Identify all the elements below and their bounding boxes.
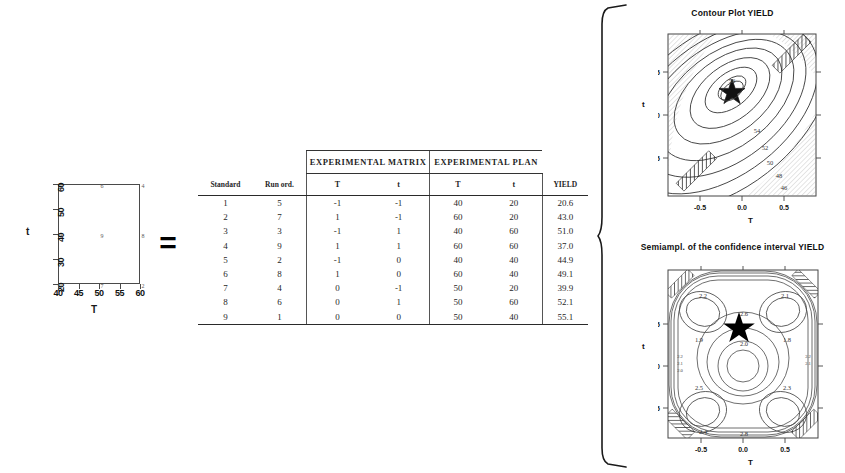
table-cell: 20: [486, 210, 542, 224]
svg-text: 0.5: [779, 204, 789, 211]
table-row: 9100504055.1: [198, 310, 588, 325]
design-plot-x-tick-45: 45: [74, 288, 83, 298]
svg-text: 0.0: [737, 204, 747, 211]
svg-text: -0.5: [658, 405, 660, 412]
experimental-design-table: EXPERIMENTAL MATRIX EXPERIMENTAL PLAN St…: [198, 150, 588, 325]
column-header-plan-T: T: [430, 174, 486, 196]
svg-text: 50: [767, 159, 774, 166]
svg-text: 0.5: [658, 321, 660, 328]
svg-text: 48: [776, 172, 783, 179]
svg-text: 2.6: [740, 310, 749, 317]
table-cell: 7: [253, 210, 307, 224]
table-cell: 50: [430, 310, 486, 325]
svg-text: 2.8: [740, 430, 748, 437]
table-cell: 43.0: [542, 210, 588, 224]
table-group-header-row: EXPERIMENTAL MATRIX EXPERIMENTAL PLAN: [198, 151, 588, 174]
table-cell: 1: [368, 224, 430, 238]
svg-text: 54: [754, 127, 761, 134]
column-header-matrix-T: T: [306, 174, 368, 196]
design-layout-plot: t T 60504030204045505560 564398172: [24, 178, 149, 323]
table-cell: 60: [486, 224, 542, 238]
svg-text: 0.0: [738, 446, 748, 453]
table-row: 8601506052.1: [198, 295, 588, 309]
svg-text: 2.0: [677, 368, 683, 373]
column-header-matrix-t: t: [368, 174, 430, 196]
table-cell: 3: [198, 224, 253, 238]
table-row: 52-10404044.9: [198, 253, 588, 267]
table-cell: 6: [198, 267, 253, 281]
table-cell: -1: [368, 210, 430, 224]
design-plot-x-tickmark: [120, 284, 121, 289]
table-cell: 44.9: [542, 253, 588, 267]
group-header-experimental-plan: EXPERIMENTAL PLAN: [430, 151, 542, 174]
group-header-spacer-left2: [253, 151, 307, 174]
svg-text: 2.3: [783, 384, 791, 391]
group-header-spacer-left: [198, 151, 253, 174]
design-point-3: 3: [60, 233, 63, 239]
table-cell: 60: [486, 295, 542, 309]
table-cell: 60: [430, 267, 486, 281]
svg-text: 46: [781, 184, 788, 191]
table-cell: 20: [486, 196, 542, 211]
design-plot-y-tickmark: [53, 184, 58, 185]
design-plot-x-tick-60: 60: [135, 288, 144, 298]
svg-text: 2.0: [740, 340, 748, 347]
svg-text: 1.8: [783, 336, 791, 343]
table-cell: 50: [430, 295, 486, 309]
design-plot-x-tick-40: 40: [53, 288, 62, 298]
table-row: 6810604049.1: [198, 267, 588, 281]
svg-text: 2.1: [781, 292, 789, 299]
design-plot-y-axis-label: t: [26, 226, 29, 237]
svg-text: -0.5: [695, 446, 707, 453]
table-cell: 39.9: [542, 281, 588, 295]
table-cell: 20: [486, 281, 542, 295]
table-cell: 1: [368, 239, 430, 253]
table-row: 15-1-1402020.6: [198, 196, 588, 211]
svg-text: 2.2: [677, 354, 683, 359]
table-cell: -1: [306, 253, 368, 267]
equals-sign: =: [155, 232, 181, 254]
svg-text: 2.1: [677, 361, 683, 366]
table-cell: 51.0: [542, 224, 588, 238]
table-row: 4911606037.0: [198, 239, 588, 253]
contour-plot-yield-panel: Contour Plot YIELD t T: [620, 4, 845, 232]
table-cell: 3: [253, 224, 307, 238]
doe-table-element: EXPERIMENTAL MATRIX EXPERIMENTAL PLAN St…: [198, 150, 588, 325]
table-row: 271-1602043.0: [198, 210, 588, 224]
table-cell: 1: [253, 310, 307, 325]
table-cell: 55.1: [542, 310, 588, 325]
svg-text: 2.4: [699, 428, 708, 435]
svg-text: 56: [729, 77, 736, 84]
svg-text: -0.5: [658, 155, 660, 162]
svg-text: 0.5: [658, 69, 660, 76]
svg-text: 2.1: [805, 361, 811, 366]
table-cell: 9: [198, 310, 253, 325]
table-cell: 1: [306, 239, 368, 253]
contour-ci-svg: 2.62.22.12.02.42.82.52.31.91.82.22.12.02…: [658, 262, 836, 460]
svg-text: 1.9: [695, 336, 703, 343]
svg-text: 2.2: [805, 354, 811, 359]
table-cell: 40: [486, 267, 542, 281]
column-header-run-order: Run ord.: [253, 174, 307, 196]
table-cell: 8: [198, 295, 253, 309]
svg-text: -0.5: [694, 204, 706, 211]
table-cell: 50: [430, 281, 486, 295]
table-cell: 2: [198, 210, 253, 224]
table-cell: 0: [368, 267, 430, 281]
design-point-7: 7: [101, 283, 104, 289]
column-header-plan-t: t: [486, 174, 542, 196]
table-cell: 49.1: [542, 267, 588, 281]
design-point-1: 1: [60, 283, 63, 289]
design-plot-y-tickmark: [53, 234, 58, 235]
design-point-6: 6: [101, 183, 104, 189]
design-point-8: 8: [142, 233, 145, 239]
table-cell: 40: [486, 310, 542, 325]
table-cell: 1: [306, 210, 368, 224]
table-cell: 1: [198, 196, 253, 211]
contour-yield-svg: 565452504846 -0.50.00.50.50.0-0.5: [658, 26, 836, 218]
design-plot-frame: [58, 184, 140, 284]
design-plot-x-tickmark: [79, 284, 80, 289]
svg-text: 52: [762, 144, 769, 151]
design-point-4: 4: [142, 183, 145, 189]
design-point-9: 9: [101, 233, 104, 239]
